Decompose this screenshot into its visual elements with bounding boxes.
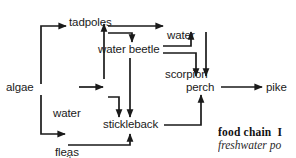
node-mosquito-larvae: mosquito larvae [32,128,78,158]
node-mosquito-larvae-line1: mosquito [32,154,78,158]
node-pike: pike [266,81,287,94]
node-water-beetle: water beetle [98,43,159,56]
node-algae: algae [6,81,34,94]
node-perch: perch [186,81,214,94]
node-stickleback: stickleback [103,118,158,131]
food-chain-diagram-figure: algae tadpoles water fleas mosquito larv… [0,0,296,158]
caption-line-2: freshwater po [218,139,296,152]
caption-lead: I [271,126,282,138]
figure-caption: food chainI freshwater po [218,126,296,152]
node-water-fleas-line1: water [53,107,81,120]
node-water-scorpion-line1: water [167,29,210,42]
edge-water-fleas-to-stickleback [108,97,119,117]
edge-algae-to-tadpoles [41,26,66,84]
edge-tadpoles-to-water-beetle [108,33,132,42]
node-water-scorpion-line2: scorpion [165,68,208,81]
caption-line-1: food chainI [218,126,296,139]
node-tadpoles: tadpoles [69,16,112,29]
caption-term: food chain [218,126,271,138]
